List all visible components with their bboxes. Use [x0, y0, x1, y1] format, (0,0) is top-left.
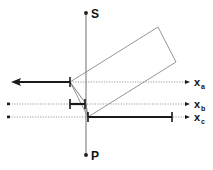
- axis-label-xc-subscript: c: [201, 118, 205, 125]
- axis-label-xa-subscript: a: [201, 83, 205, 90]
- axis-label-xb: x b: [194, 98, 205, 112]
- connector-a-to-origin: [70, 82, 86, 104]
- pole-dot-s-icon: [84, 11, 88, 15]
- axis-guides: [9, 82, 186, 117]
- axis-label-xb-subscript: b: [201, 105, 205, 112]
- axis-label-xc: x c: [194, 111, 205, 125]
- segment-a: [11, 77, 70, 87]
- diagram-figure: S P x a x b x c: [0, 0, 213, 170]
- pole-label-s: S: [91, 7, 99, 21]
- guide-start-dots: [7, 103, 10, 119]
- axis-label-xb-base: x: [194, 98, 201, 110]
- guide-dot-b-icon: [7, 103, 10, 106]
- arrowhead-xa-icon: [185, 80, 190, 84]
- axis-label-xa-base: x: [194, 76, 201, 88]
- arrowhead-xc-icon: [185, 115, 190, 119]
- segment-c: [88, 112, 172, 122]
- pole-label-p: P: [91, 149, 99, 163]
- axis-label-xa: x a: [194, 76, 205, 90]
- diagram-canvas: S P x a x b x c: [0, 0, 213, 170]
- axis-label-xc-base: x: [194, 111, 201, 123]
- guide-dot-c-icon: [7, 116, 10, 119]
- arrowhead-xb-icon: [185, 102, 190, 106]
- pole-dot-p-icon: [84, 153, 88, 157]
- axis-arrowheads: [185, 80, 190, 119]
